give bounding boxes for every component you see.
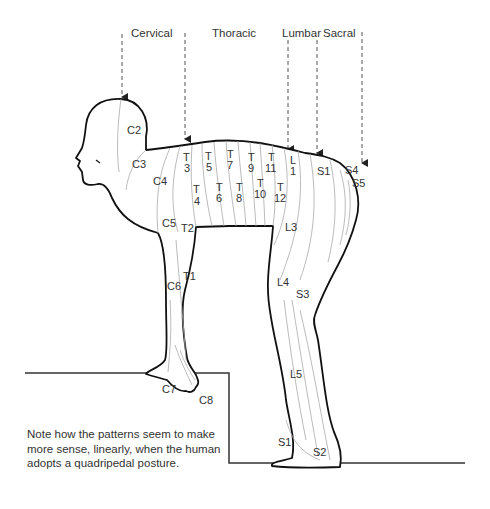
label-s2: S3: [296, 288, 309, 300]
label-t7: T7: [227, 148, 234, 171]
region-label-lumbar: Lumbar: [282, 27, 321, 39]
label-l1: L1: [290, 154, 296, 177]
svg-text:4: 4: [194, 195, 200, 207]
label-s4: S5: [352, 177, 365, 189]
label-l2: L3: [285, 221, 297, 233]
label-t8: T8: [236, 181, 243, 204]
region-label-sacral: Sacral: [323, 27, 356, 39]
label-t3: T3: [183, 151, 190, 174]
svg-text:7: 7: [227, 159, 233, 171]
region-label-cervical: Cervical: [131, 27, 173, 39]
region-headers: Cervical Thoracic Lumbar Sacral: [131, 27, 356, 39]
label-t1: T1: [183, 270, 196, 282]
label-c2: C2: [127, 124, 141, 136]
label-c6: C6: [167, 280, 181, 292]
label-l5: S1: [278, 436, 291, 448]
body-outline: [76, 99, 358, 468]
svg-text:6: 6: [216, 192, 222, 204]
svg-text:5: 5: [206, 161, 212, 173]
svg-text:12: 12: [274, 192, 286, 204]
label-t9: T9: [248, 151, 255, 174]
label-c3: C3: [132, 158, 146, 170]
svg-text:8: 8: [236, 192, 242, 204]
caption-note: Note how the patterns seem to make more …: [27, 427, 227, 471]
svg-text:9: 9: [248, 162, 254, 174]
label-t5: T5: [205, 150, 212, 173]
label-c8: C8: [199, 394, 213, 406]
label-t4: T4: [193, 183, 200, 207]
label-c7: C7: [162, 383, 176, 395]
label-c4: C4: [153, 175, 167, 187]
label-t6: T6: [216, 181, 223, 204]
svg-text:T: T: [193, 183, 200, 195]
label-s3: S4: [345, 164, 358, 176]
label-t2: T2: [181, 222, 194, 234]
svg-text:11: 11: [265, 162, 276, 174]
svg-text:3: 3: [184, 162, 190, 174]
label-l3: L4: [277, 276, 289, 288]
label-c5: C5: [162, 217, 176, 229]
svg-text:1: 1: [290, 165, 296, 177]
label-l4: L5: [290, 368, 302, 380]
region-label-thoracic: Thoracic: [212, 27, 256, 39]
svg-text:10: 10: [254, 188, 266, 200]
label-s1-back: S1: [317, 165, 330, 177]
label-s1-foot: S2: [313, 446, 326, 458]
